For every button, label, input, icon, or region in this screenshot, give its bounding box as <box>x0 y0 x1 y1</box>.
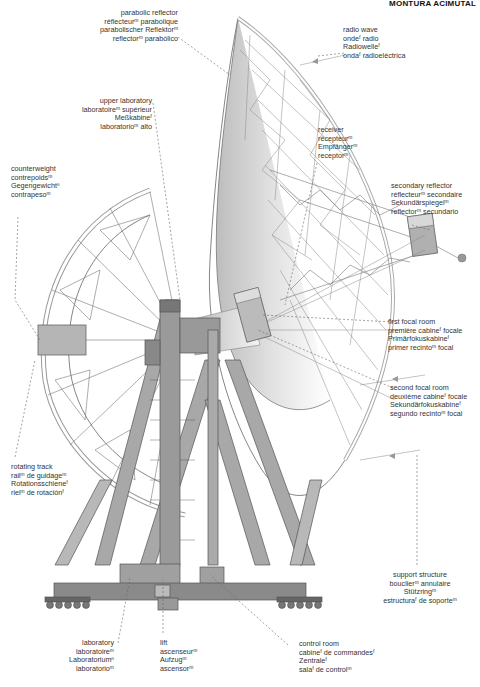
label-upper-laboratory: upper laboratory laboratoireᵐ supérieur … <box>60 97 152 131</box>
parabolic-reflector <box>209 18 393 495</box>
label-radio-wave: radio wave ondeᶠ radio Radiowelleᶠ ondaᶠ… <box>343 26 405 60</box>
label-laboratory: laboratory laboratoireᵐ Laboratoriumⁿ la… <box>52 639 114 673</box>
label-lift: lift ascenseurᵐ Aufzugᵐ ascensorᵐ <box>160 639 197 673</box>
secondary-reflector-box <box>407 213 466 262</box>
label-first-focal-room: first focal room première cabineᶠ focale… <box>388 318 462 352</box>
label-rotating-track: rotating track railᵐ de guidageᵐ Rotatio… <box>11 463 68 497</box>
label-support-structure: support structure bouclierᵐ annulaire St… <box>368 571 472 605</box>
bogie-wheels <box>47 602 322 609</box>
label-second-focal-room: second focal room deuxième cabineᶠ focal… <box>390 384 467 418</box>
label-control-room: control room cabineᶠ de commandesᶠ Zentr… <box>299 640 375 674</box>
label-parabolic-reflector: parabolic reflector réflecteurᵐ paraboli… <box>100 9 178 43</box>
label-counterweight: counterweight contrepoidsᵐ Gegengewichtⁿ… <box>11 165 60 199</box>
label-secondary-reflector: secondary reflector réflecteurᵐ secondai… <box>391 182 462 216</box>
label-receiver: receiver récepteurᵐ Empfängerᵐ receptorᵐ <box>318 126 357 160</box>
